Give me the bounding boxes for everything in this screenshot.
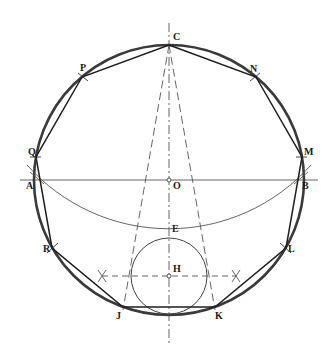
vertex-ticks bbox=[30, 73, 307, 253]
label-o: O bbox=[173, 180, 181, 191]
label-h: H bbox=[173, 263, 181, 274]
label-p: P bbox=[80, 62, 86, 73]
label-q: Q bbox=[28, 146, 36, 157]
center-point-h bbox=[167, 274, 171, 278]
label-r: R bbox=[43, 243, 51, 254]
dashed-line-c-to-j bbox=[123, 45, 169, 310]
label-c: C bbox=[173, 31, 180, 42]
label-m: M bbox=[304, 146, 314, 157]
label-n: N bbox=[250, 63, 258, 74]
center-point-o bbox=[167, 178, 171, 182]
label-a: A bbox=[26, 180, 34, 191]
label-b: B bbox=[302, 180, 309, 191]
label-j: J bbox=[116, 310, 121, 321]
label-l: L bbox=[288, 243, 295, 254]
label-k: K bbox=[215, 310, 223, 321]
label-e: E bbox=[172, 223, 179, 234]
nonagon-construction-diagram: C N M B L K J R A Q P O E H bbox=[0, 0, 335, 359]
